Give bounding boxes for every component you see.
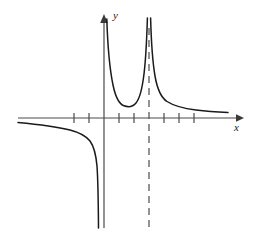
curve-right-branch (151, 18, 228, 112)
curve-lower-left-branch (18, 123, 99, 229)
x-axis (18, 114, 244, 122)
x-axis-label: x (234, 122, 239, 133)
graph-canvas (0, 0, 257, 232)
y-axis-label: y (113, 10, 118, 21)
curve-middle-branch (107, 18, 148, 107)
y-axis (100, 14, 108, 228)
function-graph-figure: y x (0, 0, 257, 232)
